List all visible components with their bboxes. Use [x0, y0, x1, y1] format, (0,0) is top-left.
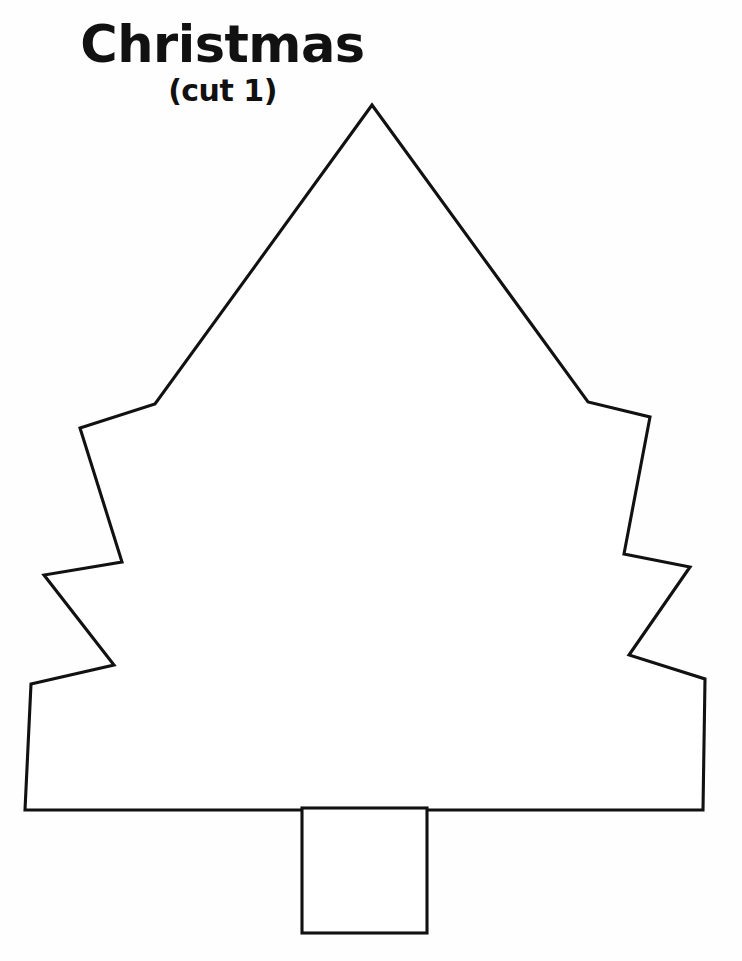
- tree-outline-group: [25, 105, 705, 933]
- worksheet-page: Christmas (cut 1): [0, 0, 742, 961]
- tree-body-outline: [25, 105, 705, 810]
- tree-trunk-outline: [302, 808, 427, 933]
- christmas-tree-artwork: [0, 0, 742, 961]
